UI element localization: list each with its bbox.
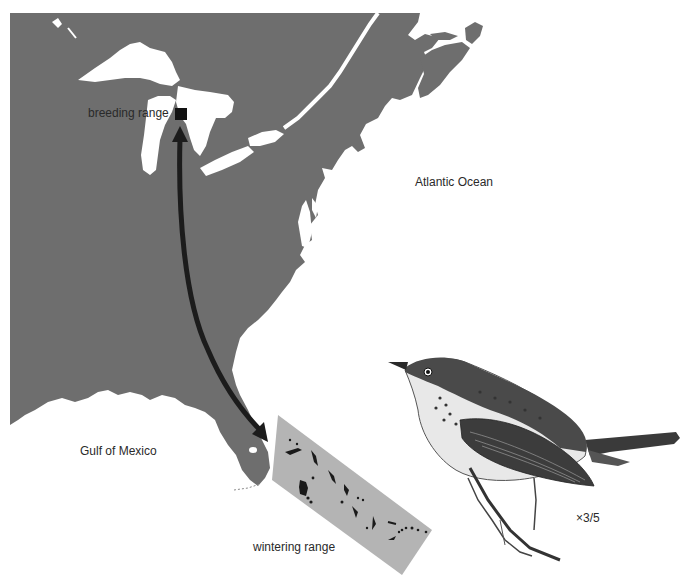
migration-map xyxy=(0,0,693,587)
wintering-range-label: wintering range xyxy=(253,540,335,554)
cape-breton xyxy=(465,22,483,44)
florida-keys xyxy=(234,484,260,490)
breeding-range-label: breeding range xyxy=(88,106,169,120)
scale-label: ×3/5 xyxy=(576,511,600,525)
warbler-illustration xyxy=(388,358,680,560)
breeding-range-marker xyxy=(175,108,187,120)
gulf-of-mexico-label: Gulf of Mexico xyxy=(80,444,157,458)
land-mass xyxy=(10,13,440,486)
atlantic-ocean-label: Atlantic Ocean xyxy=(415,175,493,189)
lake-okeechobee xyxy=(249,447,257,453)
